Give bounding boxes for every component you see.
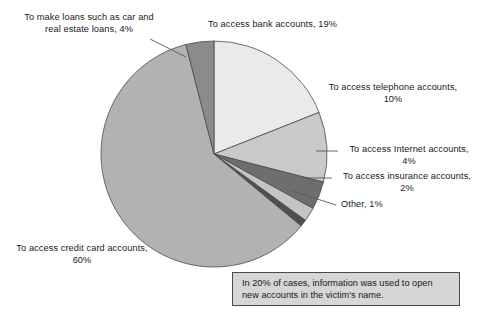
slice-label-insurance: To access insurance accounts, 2% xyxy=(337,171,477,194)
slice-label-internet: To access Internet accounts, 4% xyxy=(343,144,475,167)
pie-slices xyxy=(101,41,327,267)
slice-label-credit-card: To access credit card accounts, 60% xyxy=(2,243,162,266)
slice-label-telephone: To access telephone accounts, 10% xyxy=(318,82,468,105)
callout-box: In 20% of cases, information was used to… xyxy=(232,272,460,306)
slice-label-loans: To make loans such as car and real estat… xyxy=(8,12,170,35)
slice-label-other: Other, 1% xyxy=(341,199,431,211)
slice-label-bank: To access bank accounts, 19% xyxy=(208,19,358,31)
